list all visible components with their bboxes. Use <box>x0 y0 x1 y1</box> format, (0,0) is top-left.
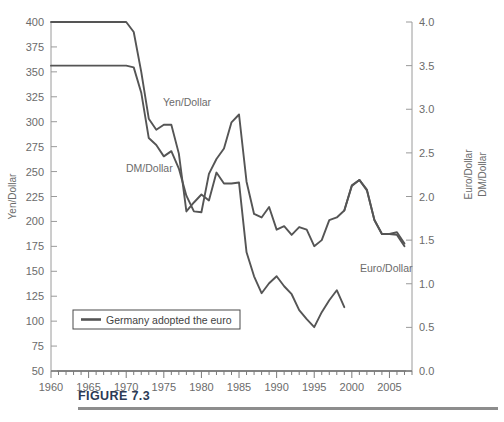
svg-text:275: 275 <box>26 141 44 153</box>
svg-text:1990: 1990 <box>264 381 288 393</box>
svg-text:3.5: 3.5 <box>419 60 434 72</box>
svg-text:50: 50 <box>32 365 44 377</box>
svg-text:175: 175 <box>26 240 44 252</box>
svg-text:125: 125 <box>26 290 44 302</box>
svg-text:225: 225 <box>26 191 44 203</box>
figure-container: 5075100125150175200225250275300325350375… <box>0 0 504 422</box>
svg-text:75: 75 <box>32 340 44 352</box>
svg-text:100: 100 <box>26 315 44 327</box>
right-axis-title-euro: Euro/Dollar <box>463 149 474 200</box>
svg-text:2.5: 2.5 <box>419 147 434 159</box>
series-annotations: Yen/DollarDM/DollarEuro/Dollar <box>126 96 413 274</box>
annotation-yen-dollar: Yen/Dollar <box>163 96 212 108</box>
svg-text:3.0: 3.0 <box>419 103 434 115</box>
exchange-rate-line-chart: 5075100125150175200225250275300325350375… <box>0 0 504 400</box>
annotation-euro-dollar: Euro/Dollar <box>360 262 413 274</box>
data-series-line-1 <box>51 66 404 247</box>
svg-text:400: 400 <box>26 16 44 28</box>
chart-legend: Germany adopted the euro <box>73 310 240 329</box>
svg-text:2005: 2005 <box>377 381 401 393</box>
data-series-line-0 <box>51 22 344 327</box>
annotation-dm-dollar: DM/Dollar <box>126 162 173 174</box>
svg-text:4.0: 4.0 <box>419 16 434 28</box>
svg-text:0.0: 0.0 <box>419 365 434 377</box>
svg-text:200: 200 <box>26 215 44 227</box>
svg-text:250: 250 <box>26 166 44 178</box>
left-axis-title: Yen/Dollar <box>7 173 18 219</box>
series-group <box>51 22 404 327</box>
axes-group: 5075100125150175200225250275300325350375… <box>7 16 488 393</box>
svg-text:325: 325 <box>26 91 44 103</box>
svg-text:1985: 1985 <box>227 381 251 393</box>
svg-text:2000: 2000 <box>340 381 364 393</box>
svg-text:2.0: 2.0 <box>419 191 434 203</box>
svg-text:150: 150 <box>26 265 44 277</box>
svg-text:300: 300 <box>26 116 44 128</box>
figure-caption-label: FIGURE 7.3 <box>78 389 150 403</box>
svg-text:1.5: 1.5 <box>419 234 434 246</box>
svg-text:1975: 1975 <box>152 381 176 393</box>
svg-text:1.0: 1.0 <box>419 278 434 290</box>
legend-label-germany-adopted-the-euro: Germany adopted the euro <box>106 314 232 326</box>
svg-text:1960: 1960 <box>39 381 63 393</box>
figure-caption-rule <box>78 407 498 410</box>
right-axis-title-dm: DM/Dollar <box>477 152 488 197</box>
svg-text:375: 375 <box>26 41 44 53</box>
svg-text:350: 350 <box>26 66 44 78</box>
svg-text:1980: 1980 <box>189 381 213 393</box>
svg-text:0.5: 0.5 <box>419 321 434 333</box>
svg-text:1995: 1995 <box>302 381 326 393</box>
